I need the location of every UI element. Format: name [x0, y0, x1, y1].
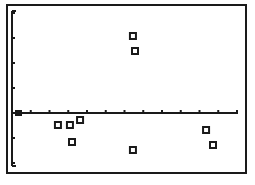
data-point: [55, 122, 61, 128]
data-point: [67, 122, 73, 128]
data-point: [130, 147, 136, 153]
data-point: [210, 142, 216, 148]
origin-marker: [15, 110, 22, 116]
data-point: [77, 117, 83, 123]
data-point: [130, 33, 136, 39]
scatter-plot: [0, 0, 255, 185]
data-point: [69, 139, 75, 145]
axes: [12, 11, 238, 166]
data-points: [55, 33, 216, 153]
data-point: [132, 48, 138, 54]
data-point: [203, 127, 209, 133]
